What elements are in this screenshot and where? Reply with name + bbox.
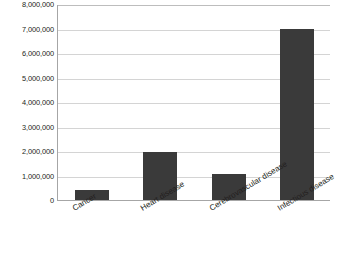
y-axis-tick-label: 2,000,000 [0,148,54,156]
y-axis-tick-label: 0 [0,197,54,205]
bar [280,29,314,201]
y-axis-tick-label: 8,000,000 [0,1,54,9]
bar-chart: 8,000,0007,000,0006,000,0005,000,0004,00… [0,0,339,266]
y-axis-tick-label: 4,000,000 [0,99,54,107]
gridline [58,5,330,6]
y-axis-tick-label: 6,000,000 [0,50,54,58]
y-axis-tick-label: 1,000,000 [0,173,54,181]
plot-area [57,5,330,201]
y-axis-tick-label: 3,000,000 [0,124,54,132]
y-axis-tick-label: 5,000,000 [0,75,54,83]
y-axis-tick-label: 7,000,000 [0,26,54,34]
